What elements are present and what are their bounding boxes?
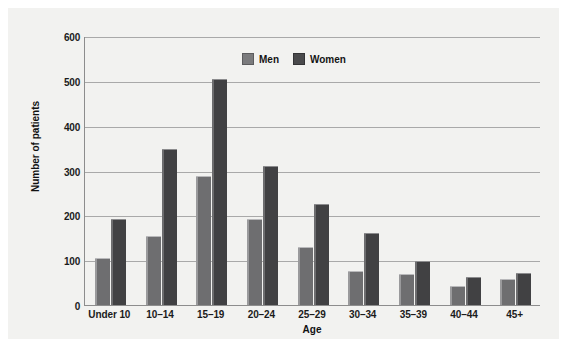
x-tick-label: 10–14 [146,309,173,320]
chart-panel: Number of patients 0100200300400500600 U… [8,8,559,339]
bar-face [450,286,465,305]
x-tick-label: 45+ [506,309,523,320]
bar-face [466,277,481,305]
bar-women-4044 [466,277,481,305]
bar-face [263,166,278,305]
bar-women-2024 [263,166,278,305]
x-tick-label: 25–29 [298,309,325,320]
bar-face [146,236,161,305]
y-tick-label: 600 [40,32,80,43]
x-tick-label: 20–24 [248,309,275,320]
y-tick-label: 300 [40,166,80,177]
legend-label: Men [259,54,279,65]
bar-women-2529 [314,204,329,305]
bar-men-4044 [450,286,465,305]
bar-face [212,79,227,305]
bar-women-3034 [364,233,379,305]
gridline-200 [85,216,540,217]
gridline-300 [85,172,540,173]
bar-face [415,261,430,305]
bar-men-3539 [399,274,414,305]
y-axis-tick-labels: 0100200300400500600 [36,37,80,306]
bar-face [111,219,126,305]
gridline-600 [85,37,540,38]
x-tick-label: 40–44 [450,309,477,320]
bar-men-2024 [247,219,262,305]
bar-men-under10 [95,258,110,305]
bar-men-1519 [196,176,211,305]
x-axis-tick-labels: Under 1010–1415–1920–2425–2930–3435–3940… [84,309,540,325]
x-tick-label: 35–39 [400,309,427,320]
y-tick-label: 100 [40,256,80,267]
bar-face [196,176,211,305]
bar-face [95,258,110,305]
women-swatch-icon [293,53,305,65]
bar-men-3034 [348,271,363,305]
bar-face [162,149,177,305]
bar-women-1519 [212,79,227,305]
y-tick-label: 400 [40,121,80,132]
men-swatch-icon [242,53,254,65]
plot-inner [85,37,540,305]
bar-face [348,271,363,305]
bar-face [247,219,262,305]
gridline-500 [85,82,540,83]
x-tick-label: 15–19 [197,309,224,320]
bar-men-45+ [500,279,515,305]
plot-area [84,37,540,306]
bar-men-2529 [298,247,313,305]
y-tick-label: 0 [40,301,80,312]
legend-item-women: Women [293,53,346,65]
bar-women-45+ [516,273,531,305]
x-tick-label: 30–34 [349,309,376,320]
bar-face [516,273,531,305]
y-tick-label: 500 [40,76,80,87]
gridline-400 [85,127,540,128]
x-tick-label: Under 10 [88,309,130,320]
bar-women-3539 [415,261,430,305]
bar-face [364,233,379,305]
bar-women-1014 [162,149,177,305]
chart-screenshot: Number of patients 0100200300400500600 U… [0,0,568,348]
legend-item-men: Men [242,53,279,65]
bar-men-1014 [146,236,161,305]
y-tick-label: 200 [40,211,80,222]
chart-legend: MenWomen [242,52,346,66]
legend-label: Women [310,54,346,65]
bar-women-under10 [111,219,126,305]
bar-face [314,204,329,305]
bar-face [500,279,515,305]
bar-face [399,274,414,305]
x-axis-title: Age [84,324,540,335]
bar-face [298,247,313,305]
